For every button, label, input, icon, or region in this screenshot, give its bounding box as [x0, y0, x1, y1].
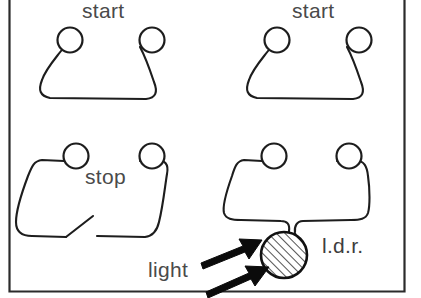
panel-start-top-right	[247, 28, 371, 100]
light-arrows	[201, 239, 269, 298]
start-2-wire	[247, 47, 363, 99]
stop-switch-blade	[66, 216, 93, 237]
panel-start-top-left	[40, 28, 164, 100]
start-1-terminal-right	[140, 28, 165, 53]
ldr-wire-left	[224, 160, 290, 240]
light-arrow-lower	[206, 266, 269, 298]
label-start-top-right: start	[292, 0, 334, 23]
light-arrow-upper	[201, 239, 262, 269]
label-stop: stop	[85, 165, 126, 189]
panel-stop	[16, 144, 168, 238]
ldr-terminal-right	[337, 144, 362, 169]
ldr-wire-right	[295, 160, 370, 242]
ldr-terminal-left	[262, 144, 287, 169]
start-2-terminal-left	[265, 28, 290, 53]
start-1-terminal-left	[58, 28, 83, 53]
stop-wire-left	[16, 160, 66, 237]
start-1-wire	[40, 47, 156, 99]
label-start-top-left: start	[82, 0, 124, 23]
ldr-body	[261, 232, 307, 278]
label-light: light	[148, 258, 188, 282]
stop-terminal-right	[140, 144, 165, 169]
circuit-symbols-figure: start start stop light l.d.r.	[0, 0, 421, 298]
label-ldr: l.d.r.	[322, 234, 363, 258]
start-2-terminal-right	[347, 28, 372, 53]
